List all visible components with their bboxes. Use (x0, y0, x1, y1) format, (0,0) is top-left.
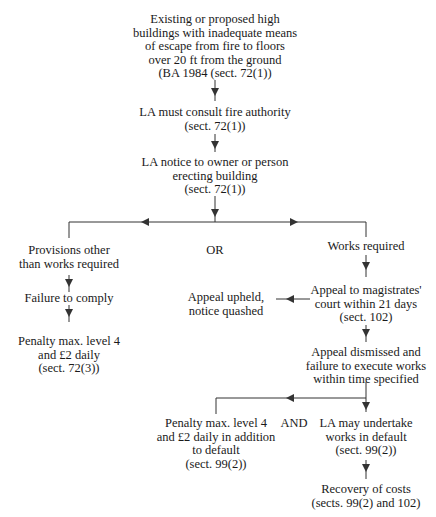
node-works-required: Works required (327, 240, 404, 254)
node-line: over 20 ft from the ground (133, 54, 297, 68)
node-line: Failure to comply (25, 292, 114, 306)
node-line: (sect. 72(3)) (18, 362, 120, 376)
node-line: (sect. 72(1)) (142, 183, 289, 197)
node-line: Penalty max. level 4 (18, 335, 120, 349)
node-line: works in default (319, 431, 412, 445)
node-line: than works required (19, 258, 119, 272)
node-appeal-magistrates: Appeal to magistrates' court within 21 d… (310, 284, 421, 325)
node-la-may-undertake: LA may undertake works in default (sect.… (319, 417, 412, 458)
node-line: (sect. 102) (310, 311, 421, 325)
node-line: Recovery of costs (312, 483, 421, 497)
node-penalty-level-4: Penalty max. level 4 and £2 daily (sect.… (18, 335, 120, 376)
node-line: failure to execute works (306, 360, 426, 374)
node-line: (sect. 72(1)) (139, 120, 290, 134)
node-line: Penalty max. level 4 (157, 417, 276, 431)
node-appeal-dismissed: Appeal dismissed and failure to execute … (306, 346, 426, 387)
node-line: (BA 1984 (sect. 72(1)) (133, 67, 297, 81)
or-text: OR (206, 244, 223, 258)
node-line: of escape from fire to floors (133, 40, 297, 54)
and-text: AND (280, 417, 307, 431)
node-provisions-other: Provisions other than works required (19, 244, 119, 271)
node-line: Provisions other (19, 244, 119, 258)
node-line: (sect. 99(2)) (157, 458, 276, 472)
node-line: buildings with inadequate means (133, 27, 297, 41)
node-line: to default (157, 444, 276, 458)
node-penalty-default: Penalty max. level 4 and £2 daily in add… (157, 417, 276, 471)
node-line: Works required (327, 240, 404, 254)
node-la-notice: LA notice to owner or person erecting bu… (142, 156, 289, 197)
node-recovery-of-costs: Recovery of costs (sects. 99(2) and 102) (312, 483, 421, 510)
or-label: OR (206, 244, 223, 258)
node-line: LA may undertake (319, 417, 412, 431)
node-line: within time specified (306, 373, 426, 387)
and-label: AND (280, 417, 307, 431)
node-line: and £2 daily (18, 349, 120, 363)
node-line: court within 21 days (310, 298, 421, 312)
node-line: Appeal dismissed and (306, 346, 426, 360)
node-failure-to-comply: Failure to comply (25, 292, 114, 306)
node-line: notice quashed (188, 305, 264, 319)
node-consult-fire-authority: LA must consult fire authority (sect. 72… (139, 106, 290, 133)
node-line: LA notice to owner or person (142, 156, 289, 170)
node-line: Existing or proposed high (133, 13, 297, 27)
node-line: and £2 daily in addition (157, 431, 276, 445)
node-existing-buildings: Existing or proposed high buildings with… (133, 13, 297, 81)
node-line: (sects. 99(2) and 102) (312, 497, 421, 511)
node-appeal-upheld: Appeal upheld, notice quashed (188, 291, 264, 318)
node-line: (sect. 99(2)) (319, 444, 412, 458)
node-line: LA must consult fire authority (139, 106, 290, 120)
node-line: Appeal to magistrates' (310, 284, 421, 298)
node-line: erecting building (142, 170, 289, 184)
node-line: Appeal upheld, (188, 291, 264, 305)
